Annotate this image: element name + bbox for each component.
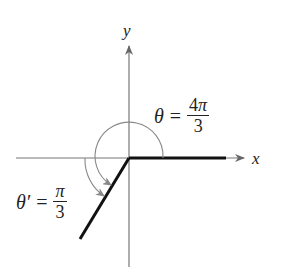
reference-angle-label: θ′ = π 3 bbox=[16, 182, 67, 221]
theta-symbol: θ bbox=[154, 106, 164, 126]
equals-sign: = bbox=[170, 106, 181, 126]
x-axis-label: x bbox=[252, 150, 260, 167]
theta-denominator: 3 bbox=[194, 116, 203, 135]
terminal-side bbox=[80, 158, 129, 239]
theta-prime-symbol: θ′ bbox=[16, 192, 30, 212]
y-axis-label: y bbox=[123, 22, 131, 39]
theta-fraction: 4π 3 bbox=[187, 96, 209, 135]
theta-numerator-pi: π bbox=[198, 95, 207, 115]
reference-denominator: 3 bbox=[56, 202, 65, 221]
reference-angle-arc bbox=[85, 158, 104, 196]
reference-numerator-pi: π bbox=[55, 181, 64, 201]
reference-angle-fraction: π 3 bbox=[53, 182, 66, 221]
theta-numerator-coef: 4 bbox=[189, 95, 198, 115]
coordinate-plane bbox=[0, 0, 283, 277]
equals-sign: = bbox=[36, 192, 47, 212]
diagram-canvas: y x θ = 4π 3 θ′ = π 3 bbox=[0, 0, 283, 277]
theta-label: θ = 4π 3 bbox=[154, 96, 209, 135]
